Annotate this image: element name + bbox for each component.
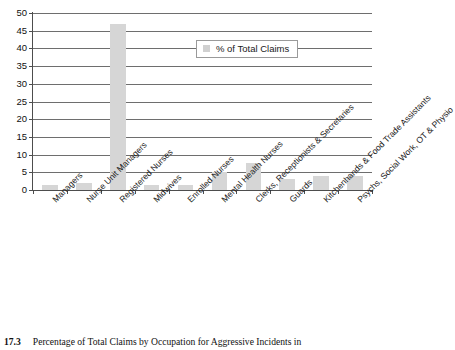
y-tick-label: 35 bbox=[16, 61, 27, 71]
y-tick-label: 10 bbox=[16, 150, 27, 160]
bar bbox=[313, 176, 329, 191]
gridline bbox=[33, 84, 372, 85]
legend-swatch-icon bbox=[203, 45, 210, 52]
gridline bbox=[33, 155, 372, 156]
y-tick-label: 50 bbox=[16, 8, 27, 18]
gridline bbox=[33, 13, 372, 14]
caption-number: 17.3 bbox=[4, 336, 21, 347]
y-tick-label: 30 bbox=[16, 79, 27, 89]
y-axis-line bbox=[32, 12, 33, 191]
caption-text: Percentage of Total Claims by Occupation… bbox=[33, 336, 302, 347]
gridline bbox=[33, 102, 372, 103]
y-tick-label: 25 bbox=[16, 97, 27, 107]
bar bbox=[76, 183, 92, 190]
y-tick-label: 40 bbox=[16, 44, 27, 54]
figure-caption: 17.3 Percentage of Total Claims by Occup… bbox=[4, 336, 385, 347]
y-tick-label: 45 bbox=[16, 26, 27, 36]
y-tick-label: 15 bbox=[16, 132, 27, 142]
gridline bbox=[33, 31, 372, 32]
gridline bbox=[33, 172, 372, 173]
gridline bbox=[33, 119, 372, 120]
y-tick-label: 5 bbox=[22, 168, 27, 178]
chart-legend: % of Total Claims bbox=[196, 40, 298, 58]
x-axis-labels: ManagersNurse Unit ManagersRegistered Nu… bbox=[0, 190, 385, 325]
y-tick-label: 20 bbox=[16, 114, 27, 124]
legend-label: % of Total Claims bbox=[216, 44, 289, 54]
gridline bbox=[33, 66, 372, 67]
